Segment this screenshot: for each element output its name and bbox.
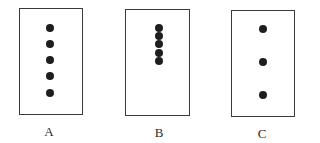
- panel-label-b: B: [144, 126, 174, 139]
- dot: [259, 58, 267, 66]
- dot: [46, 24, 54, 32]
- panel-label-c: C: [247, 127, 277, 140]
- dot: [259, 25, 267, 33]
- dot: [155, 40, 163, 48]
- dot: [46, 89, 54, 97]
- dot: [155, 49, 163, 57]
- dot: [259, 91, 267, 99]
- dot: [46, 40, 54, 48]
- dot: [46, 56, 54, 64]
- dot: [155, 24, 163, 32]
- dot: [155, 32, 163, 40]
- dot: [155, 57, 163, 65]
- dot: [46, 72, 54, 80]
- panel-label-a: A: [34, 125, 64, 138]
